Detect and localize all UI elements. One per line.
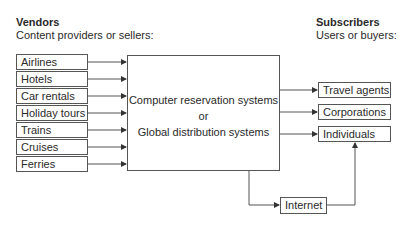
center-line-3: Global distribution systems: [128, 124, 279, 140]
vendor-holiday-tours: Holiday tours: [16, 105, 88, 121]
vendors-header: Vendors Content providers or sellers:: [16, 16, 154, 42]
vendor-hotels: Hotels: [16, 71, 88, 87]
vendor-cruises: Cruises: [16, 139, 88, 155]
center-line-2: or: [128, 108, 279, 124]
vendor-trains: Trains: [16, 122, 88, 138]
subscriber-travel-agents: Travel agents: [318, 82, 391, 98]
center-line-1: Computer reservation systems: [128, 92, 279, 108]
subscribers-subtitle: Users or buyers:: [316, 29, 397, 41]
subscriber-individuals: Individuals: [318, 126, 391, 142]
vendor-airlines: Airlines: [16, 54, 88, 70]
internet-box: Internet: [280, 197, 327, 214]
vendor-ferries: Ferries: [16, 156, 88, 172]
vendors-title: Vendors: [16, 16, 154, 29]
subscribers-header: Subscribers Users or buyers:: [316, 16, 397, 42]
subscribers-title: Subscribers: [316, 16, 397, 29]
vendors-subtitle: Content providers or sellers:: [16, 29, 154, 41]
reservation-systems-box: Computer reservation systems or Global d…: [127, 55, 280, 171]
subscriber-corporations: Corporations: [318, 104, 391, 120]
vendor-car-rentals: Car rentals: [16, 88, 88, 104]
